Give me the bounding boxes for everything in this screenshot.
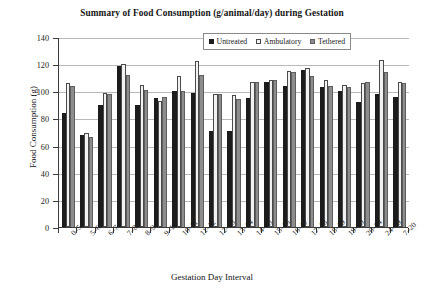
bar-group [335,37,353,227]
bar-group [188,37,206,227]
bar-group [372,37,390,227]
legend-label: Ambulatory [264,37,302,46]
y-tick-label: 60 [41,142,49,151]
bar-tethered-5-6 [89,137,93,227]
bar-tethered-7-20 [402,83,406,227]
bar-tethered-17-18 [310,76,314,227]
bar-tethered-0-5 [70,86,74,227]
y-tick-label: 100 [37,88,49,97]
bar-group [114,37,132,227]
bar-group [96,37,114,227]
bar-group [206,37,224,227]
bar-tethered-15-16 [273,80,277,227]
bar-tethered-9-10 [162,97,166,227]
legend-label: Untreated [217,37,248,46]
bar-tethered-10-11 [181,91,185,227]
legend-item-untreated[interactable]: Untreated [209,37,247,46]
bar-tethered-16-17 [291,72,295,227]
bar-group [170,37,188,227]
legend-swatch-icon [310,39,315,44]
bar-group [262,37,280,227]
bar-tethered-20-24 [365,82,369,227]
legend-swatch-icon [256,39,261,44]
bar-group [225,37,243,227]
bar-group [354,37,372,227]
chart-title: Summary of Food Consumption (g/animal/da… [0,8,424,18]
bar-group [151,37,169,227]
legend-swatch-icon [209,39,214,44]
y-tick-label: 20 [41,196,49,205]
y-tick-label: 120 [37,61,49,70]
bar-tethered-18-19 [328,86,332,227]
bar-tethered-8-9 [144,90,148,227]
bar-tethered-11-12 [199,75,203,227]
bar-group [59,37,77,227]
bar-tethered-14-15 [255,82,259,227]
legend-item-ambulatory[interactable]: Ambulatory [256,37,301,46]
legend-item-tethered[interactable]: Tethered [310,37,345,46]
chart-figure: Summary of Food Consumption (g/animal/da… [0,0,424,296]
bar-group [317,37,335,227]
bar-group [133,37,151,227]
chart-legend: UntreatedAmbulatoryTethered [203,33,351,50]
bar-tethered-12-13 [218,94,222,227]
x-axis-tick-labels: 0–55–66–77–88–99–1010–1111–1212–1313–141… [58,231,408,271]
bar-group [280,37,298,227]
y-tick-label: 140 [37,34,49,43]
bar-group [298,37,316,227]
plot-area [58,38,408,228]
x-axis-label: Gestation Day Interval [0,272,424,282]
y-tick-label: 0 [45,224,49,233]
y-axis-ticks: 020406080100120140 [0,38,58,228]
bar-tethered-6-7 [107,94,111,227]
bar-group [243,37,261,227]
y-tick-label: 80 [41,115,49,124]
bar-series-container [59,37,409,227]
bar-tethered-13-14 [236,99,240,227]
bar-tethered-7-8 [126,75,130,227]
bar-tethered-19-20 [347,87,351,227]
bar-tethered-24-29 [384,72,388,227]
bar-group [391,37,409,227]
bar-group [77,37,95,227]
y-tick-label: 40 [41,169,49,178]
legend-label: Tethered [318,37,345,46]
